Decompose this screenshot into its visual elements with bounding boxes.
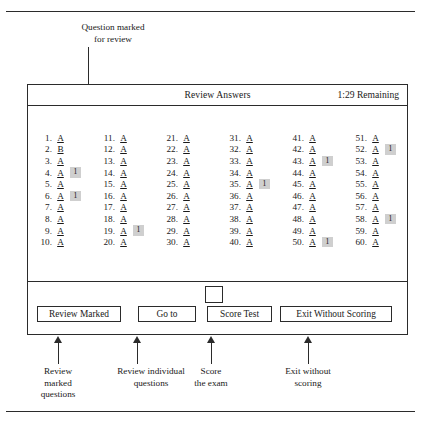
marked-for-review-placeholder — [196, 179, 207, 190]
answer-letter: A — [119, 214, 128, 224]
answer-row[interactable]: 44.A — [288, 167, 351, 179]
answer-row[interactable]: 17.A — [99, 202, 162, 214]
page-top-rule — [6, 11, 415, 12]
answer-row[interactable]: 58.A1 — [351, 213, 414, 225]
answer-row[interactable]: 8.A — [36, 213, 99, 225]
answer-letter: A — [182, 202, 191, 212]
review-marked-button[interactable]: Review Marked — [37, 306, 121, 322]
exit-without-scoring-button[interactable]: Exit Without Scoring — [280, 306, 392, 322]
answer-row[interactable]: 10.A — [36, 236, 99, 248]
marked-for-review-placeholder — [259, 237, 270, 248]
marked-for-review-placeholder — [322, 214, 333, 225]
marked-for-review-placeholder — [196, 167, 207, 178]
question-number: 15. — [99, 179, 115, 189]
answer-row[interactable]: 6.A1 — [36, 190, 99, 202]
answer-row[interactable]: 34.A — [225, 167, 288, 179]
question-number: 11. — [99, 133, 115, 143]
answer-row[interactable]: 27.A — [162, 202, 225, 214]
answer-row[interactable]: 39.A — [225, 225, 288, 237]
answer-row[interactable]: 9.A — [36, 225, 99, 237]
answer-letter: A — [182, 226, 191, 236]
answer-row[interactable]: 54.A — [351, 167, 414, 179]
marked-for-review-placeholder — [322, 144, 333, 155]
answer-row[interactable]: 60.A — [351, 236, 414, 248]
answer-letter: A — [245, 226, 254, 236]
go-to-button[interactable]: Go to — [138, 306, 196, 322]
answer-row[interactable]: 51.A — [351, 132, 414, 144]
answer-row[interactable]: 16.A — [99, 190, 162, 202]
answer-row[interactable]: 50.A1 — [288, 236, 351, 248]
question-number: 52. — [351, 144, 367, 154]
answer-row[interactable]: 22.A — [162, 144, 225, 156]
question-number: 56. — [351, 191, 367, 201]
answer-row[interactable]: 43.A1 — [288, 155, 351, 167]
answer-row[interactable]: 37.A — [225, 202, 288, 214]
question-number: 26. — [162, 191, 178, 201]
callout-label-line: questions — [24, 389, 92, 401]
answer-row[interactable]: 48.A — [288, 213, 351, 225]
answer-row[interactable]: 3.A — [36, 155, 99, 167]
answer-row[interactable]: 40.A — [225, 236, 288, 248]
answer-row[interactable]: 36.A — [225, 190, 288, 202]
callout-label-line: Review — [24, 366, 92, 378]
answer-row[interactable]: 18.A — [99, 213, 162, 225]
answer-row[interactable]: 4.A1 — [36, 167, 99, 179]
answer-row[interactable]: 5.A — [36, 178, 99, 190]
answer-row[interactable]: 1.A — [36, 132, 99, 144]
answer-letter: A — [56, 179, 65, 189]
answer-row[interactable]: 14.A — [99, 167, 162, 179]
question-number: 17. — [99, 202, 115, 212]
answer-row[interactable]: 25.A — [162, 178, 225, 190]
question-number: 45. — [288, 179, 304, 189]
marked-for-review-placeholder — [196, 202, 207, 213]
callout-leader-line — [137, 342, 138, 364]
answer-row[interactable]: 47.A — [288, 202, 351, 214]
answer-letter: A — [56, 237, 65, 247]
answer-row[interactable]: 7.A — [36, 202, 99, 214]
callout-leader-line — [211, 342, 212, 364]
answer-letter: A — [308, 156, 317, 166]
answer-row[interactable]: 38.A — [225, 213, 288, 225]
answer-row[interactable]: 15.A — [99, 178, 162, 190]
goto-question-input[interactable] — [205, 286, 223, 303]
callout-label: Scorethe exam — [180, 366, 242, 389]
answer-letter: A — [308, 179, 317, 189]
answer-row[interactable]: 52.A1 — [351, 144, 414, 156]
answer-row[interactable]: 24.A — [162, 167, 225, 179]
answer-row[interactable]: 56.A — [351, 190, 414, 202]
answer-row[interactable]: 29.A — [162, 225, 225, 237]
answer-row[interactable]: 59.A — [351, 225, 414, 237]
answer-letter: A — [308, 226, 317, 236]
answer-letter: A — [182, 191, 191, 201]
answer-row[interactable]: 28.A — [162, 213, 225, 225]
answer-row[interactable]: 30.A — [162, 236, 225, 248]
answer-row[interactable]: 46.A — [288, 190, 351, 202]
answer-row[interactable]: 41.A — [288, 132, 351, 144]
answer-row[interactable]: 31.A — [225, 132, 288, 144]
answer-row[interactable]: 55.A — [351, 178, 414, 190]
answer-row[interactable]: 35.A1 — [225, 178, 288, 190]
answer-row[interactable]: 20.A — [99, 236, 162, 248]
answer-row[interactable]: 26.A — [162, 190, 225, 202]
question-number: 27. — [162, 202, 178, 212]
answer-row[interactable]: 32.A — [225, 144, 288, 156]
score-test-button[interactable]: Score Test — [207, 306, 272, 322]
answer-letter: A — [245, 179, 254, 189]
answer-row[interactable]: 49.A — [288, 225, 351, 237]
answer-row[interactable]: 12.A — [99, 144, 162, 156]
answer-row[interactable]: 13.A — [99, 155, 162, 167]
question-number: 29. — [162, 226, 178, 236]
answer-row[interactable]: 19.A1 — [99, 225, 162, 237]
marked-for-review-placeholder — [70, 179, 81, 190]
answer-row[interactable]: 33.A — [225, 155, 288, 167]
answer-row[interactable]: 11.A — [99, 132, 162, 144]
answer-row[interactable]: 42.A — [288, 144, 351, 156]
answer-row[interactable]: 21.A — [162, 132, 225, 144]
marked-for-review-placeholder — [259, 144, 270, 155]
answer-row[interactable]: 2.B — [36, 144, 99, 156]
answer-letter: A — [119, 133, 128, 143]
answer-row[interactable]: 23.A — [162, 155, 225, 167]
answer-row[interactable]: 45.A — [288, 178, 351, 190]
answer-row[interactable]: 53.A — [351, 155, 414, 167]
answer-row[interactable]: 57.A — [351, 202, 414, 214]
